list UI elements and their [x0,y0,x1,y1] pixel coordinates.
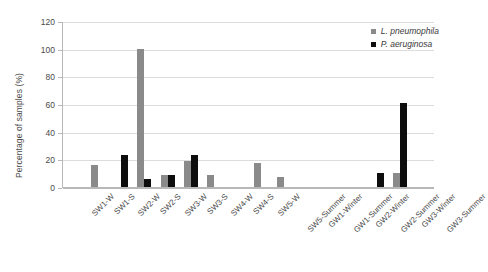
y-axis-tick-label: 20 [15,155,55,165]
legend-swatch-icon [371,42,376,47]
bar [191,155,198,187]
y-axis-tick-mark [58,188,62,189]
bar [144,179,151,187]
legend-swatch-icon [371,29,376,34]
bar [91,165,98,187]
bar-group [179,22,202,187]
bar-group [203,22,226,187]
bar-group [249,22,272,187]
bar-group [296,22,319,187]
legend-item: L. pneumophila [371,26,439,36]
y-axis-tick-label: 60 [15,100,55,110]
bar [161,175,168,187]
y-axis-tick-label: 80 [15,72,55,82]
bar-group [110,22,133,187]
bar-group [156,22,179,187]
bar-group [319,22,342,187]
y-axis-tick-label: 0 [15,183,55,193]
bar [393,173,400,187]
chart-legend: L. pneumophilaP. aeruginosa [371,26,439,49]
bar [254,163,261,187]
bar [207,175,214,187]
bar-group [272,22,295,187]
legend-label: P. aeruginosa [381,39,432,49]
bar-group [226,22,249,187]
bar [137,49,144,187]
legend-item: P. aeruginosa [371,39,439,49]
bar [121,155,128,187]
y-axis-tick-label: 100 [15,45,55,55]
bar [277,177,284,187]
bar [377,173,384,187]
bar-group [63,22,86,187]
bar-group [342,22,365,187]
y-axis-tick-label: 120 [15,17,55,27]
bar-group [86,22,109,187]
legend-label: L. pneumophila [381,26,439,36]
bar [400,103,407,187]
bar [184,161,191,187]
bar [168,175,175,187]
y-axis-tick-label: 40 [15,128,55,138]
bar-group [133,22,156,187]
gridline [63,188,434,189]
